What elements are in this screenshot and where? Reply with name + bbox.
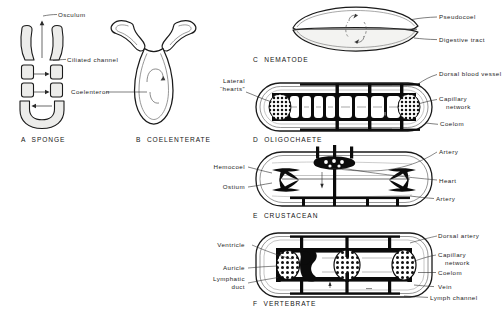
label-artery-lower: Artery bbox=[436, 195, 455, 202]
caption-sponge: A SPONGE bbox=[21, 136, 65, 143]
nematode-diagram bbox=[293, 7, 437, 51]
label-coelom-oligochaete: Coelom bbox=[440, 120, 464, 127]
label-ostium: Ostium bbox=[197, 183, 245, 190]
figure-artwork bbox=[0, 0, 504, 316]
label-auricle: Auricle bbox=[193, 264, 245, 271]
label-capillary-vertebrate: Capillary bbox=[438, 251, 466, 258]
label-ciliated-channel: Ciliated channel bbox=[67, 56, 118, 63]
label-artery-upper: Artery bbox=[439, 148, 458, 155]
label-dorsal-blood-vessel: Dorsal blood vessel bbox=[439, 70, 502, 77]
label-lymph-channel: Lymph channel bbox=[430, 294, 478, 301]
label-lateral: Lateral bbox=[197, 77, 245, 84]
label-capillary-network: network bbox=[446, 103, 471, 110]
oligochaete-diagram bbox=[246, 75, 438, 132]
label-coelenteron: Coelenteron bbox=[71, 88, 110, 95]
label-osculum: Osculum bbox=[58, 11, 86, 18]
caption-crustacean: E CRUSTACEAN bbox=[253, 212, 318, 219]
caption-oligochaete: D OLIGOCHAETE bbox=[253, 136, 322, 143]
sponge-diagram bbox=[20, 15, 66, 129]
caption-nematode: C NEMATODE bbox=[253, 56, 309, 63]
label-vein: Vein bbox=[438, 283, 452, 290]
vertebrate-diagram bbox=[248, 233, 437, 297]
label-hemocoel: Hemocoel bbox=[197, 163, 245, 170]
label-lymphatic-duct: duct bbox=[185, 283, 245, 290]
caption-coelenterate: B COELENTERATE bbox=[136, 136, 211, 143]
label-lymphatic: Lymphatic bbox=[185, 275, 245, 282]
label-coelom-vertebrate: Coelom bbox=[438, 269, 462, 276]
label-dorsal-artery: Dorsal artery bbox=[438, 232, 479, 239]
label-digestive-tract: Digestive tract bbox=[439, 36, 485, 43]
label-lateral-hearts: “hearts” bbox=[197, 85, 245, 92]
label-heart: Heart bbox=[439, 177, 456, 184]
label-ventricle: Ventricle bbox=[193, 241, 245, 248]
coelenterate-diagram bbox=[106, 21, 196, 124]
crustacean-diagram bbox=[248, 145, 437, 206]
caption-vertebrate: F VERTEBRATE bbox=[253, 300, 316, 307]
comparative-circulatory-figure: Osculum Ciliated channel A SPONGE Coelen… bbox=[0, 0, 504, 316]
label-capillary-network-vertebrate: network bbox=[445, 259, 470, 266]
label-pseudocoel: Pseudocoel bbox=[439, 13, 476, 20]
label-capillary: Capillary bbox=[439, 95, 467, 102]
